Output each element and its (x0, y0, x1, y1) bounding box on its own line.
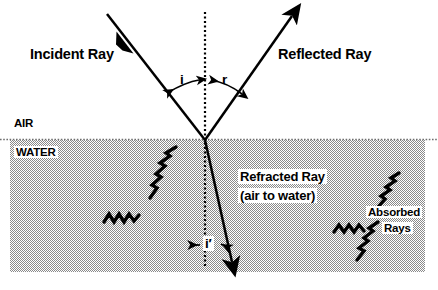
reflected-ray-label: Reflected Ray (278, 46, 371, 62)
incident-ray-line (107, 14, 205, 140)
absorbed-rays-label-line2: Rays (382, 222, 413, 234)
optics-diagram-svg (0, 0, 438, 290)
angle-refraction-label: i′ (203, 236, 214, 251)
refracted-ray-sublabel: (air to water) (238, 188, 317, 203)
angle-reflection-label: r (222, 72, 227, 87)
diagram-canvas: Incident Ray Reflected Ray AIR WATER i r… (0, 0, 438, 290)
water-label: WATER (14, 146, 58, 158)
absorbed-rays-label-line1: Absorbed (366, 206, 422, 218)
incident-ray-label: Incident Ray (30, 46, 114, 62)
refracted-ray-label: Refracted Ray (238, 169, 327, 184)
air-label: AIR (14, 117, 33, 129)
reflected-ray-line (205, 16, 292, 140)
angle-incidence-label: i (180, 72, 184, 87)
